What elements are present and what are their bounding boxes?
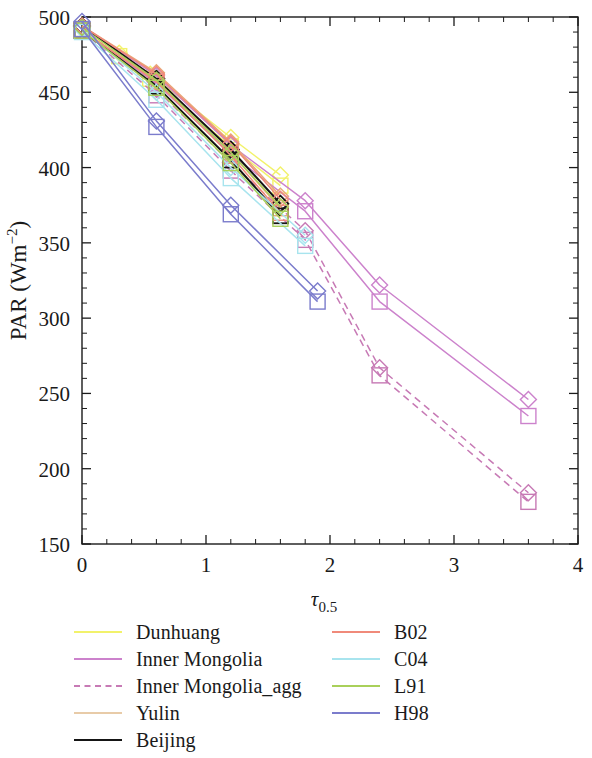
y-tick-label: 300 <box>39 307 71 331</box>
legend-swatch-line <box>74 712 122 714</box>
legend-column-right: B02C04L91H98 <box>330 618 429 726</box>
series-h98-sq <box>75 22 326 310</box>
legend-swatch-line <box>332 658 380 660</box>
legend-label: C04 <box>382 649 428 669</box>
legend-swatch <box>72 652 124 666</box>
par-vs-tau-line-chart: 01234150200250300350400450500τ0.5PAR (Wm… <box>0 0 592 615</box>
y-axis-label-superscript: −2 <box>4 229 20 245</box>
legend-label: Beijing <box>124 730 196 750</box>
legend-swatch <box>72 679 124 693</box>
figure-root: 01234150200250300350400450500τ0.5PAR (Wm… <box>0 0 592 758</box>
legend-item-c04[interactable]: C04 <box>330 645 429 672</box>
x-tick-label: 0 <box>77 553 88 577</box>
legend-swatch <box>330 652 382 666</box>
legend-swatch <box>330 679 382 693</box>
y-axis-label: PAR (Wm−2) <box>4 221 31 340</box>
x-tick-label: 3 <box>449 553 460 577</box>
legend-swatch-line <box>332 685 380 687</box>
series-group <box>74 14 536 510</box>
legend-label: Inner Mongolia_agg <box>124 676 302 696</box>
legend-item-h98[interactable]: H98 <box>330 699 429 726</box>
marker-diamond <box>520 485 536 501</box>
chart-legend: DunhuangInner MongoliaInner Mongolia_agg… <box>0 618 592 758</box>
axis-ticks: 01234150200250300350400450500 <box>39 6 584 577</box>
chart-figure: 01234150200250300350400450500τ0.5PAR (Wm… <box>0 0 592 615</box>
legend-swatch-line <box>74 631 122 633</box>
legend-label: L91 <box>382 676 427 696</box>
series-inner-mongolia-agg <box>74 20 536 501</box>
legend-item-beijing[interactable]: Beijing <box>72 726 302 753</box>
legend-swatch-line <box>74 739 122 741</box>
legend-swatch <box>330 706 382 720</box>
legend-label: Yulin <box>124 703 180 723</box>
legend-swatch-line <box>332 631 380 633</box>
legend-label: B02 <box>382 622 428 642</box>
legend-swatch-line <box>74 685 122 687</box>
legend-item-b02[interactable]: B02 <box>330 618 429 645</box>
legend-swatch <box>72 733 124 747</box>
y-tick-label: 400 <box>39 157 71 181</box>
legend-swatch <box>72 625 124 639</box>
x-tick-label: 4 <box>573 553 584 577</box>
y-tick-label: 150 <box>39 533 71 557</box>
y-tick-label: 250 <box>39 382 71 406</box>
legend-swatch-line <box>74 658 122 660</box>
legend-label: Dunhuang <box>124 622 220 642</box>
legend-swatch-line <box>332 712 380 714</box>
legend-label: Inner Mongolia <box>124 649 262 669</box>
legend-label: H98 <box>382 703 429 723</box>
legend-item-yulin[interactable]: Yulin <box>72 699 302 726</box>
y-axis-label-close: ) <box>6 221 31 229</box>
legend-item-l91[interactable]: L91 <box>330 672 429 699</box>
legend-item-inner-mongolia[interactable]: Inner Mongolia <box>72 645 302 672</box>
y-tick-label: 450 <box>39 81 71 105</box>
legend-swatch <box>330 625 382 639</box>
y-tick-label: 200 <box>39 458 71 482</box>
legend-swatch <box>72 706 124 720</box>
x-axis-label: τ0.5 <box>311 587 337 615</box>
marker-square <box>521 409 536 424</box>
legend-item-dunhuang[interactable]: Dunhuang <box>72 618 302 645</box>
x-axis-label-subscript: 0.5 <box>318 599 337 615</box>
y-tick-label: 500 <box>39 6 71 30</box>
x-tick-label: 1 <box>201 553 212 577</box>
x-tick-label: 2 <box>325 553 336 577</box>
series-line <box>82 22 318 292</box>
legend-column-left: DunhuangInner MongoliaInner Mongolia_agg… <box>72 618 302 753</box>
y-tick-label: 350 <box>39 232 71 256</box>
legend-item-inner-mongolia-agg[interactable]: Inner Mongolia_agg <box>72 672 302 699</box>
series-inner-mongolia-agg-sq <box>75 23 536 509</box>
